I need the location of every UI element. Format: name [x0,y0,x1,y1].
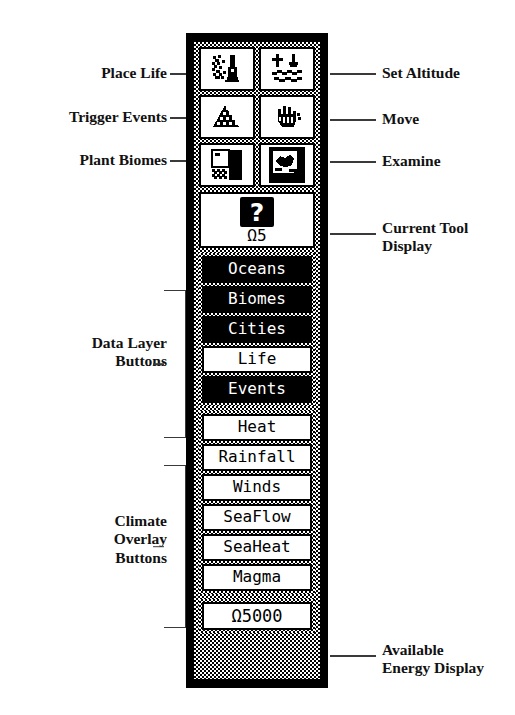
move-hand-icon [269,99,305,135]
data-layer-button-oceans[interactable]: Oceans [202,256,312,283]
annotation-move: Move [382,110,515,128]
examine-magnifier-icon [269,147,305,183]
climate-overlay-button-rainfall[interactable]: Rainfall [202,444,312,471]
climate-overlay-button-seaflow[interactable]: SeaFlow [202,504,312,531]
panel-interior: ? Ω5 Oceans Biomes Cities Life Events He… [194,42,320,679]
trigger-events-icon [209,99,245,135]
leader-examine [330,161,376,163]
set-altitude-icon [269,51,305,87]
tool-button-plant-biomes[interactable] [199,143,255,187]
question-mark-icon: ? [240,197,274,227]
annotation-current-tool-display: Current Tool Display [382,219,515,256]
leader-current-tool-display [330,233,376,235]
annotation-data-layer-buttons: Data Layer Buttons [0,334,167,371]
annotation-set-altitude: Set Altitude [382,64,515,82]
place-life-icon [209,51,245,87]
climate-overlay-button-heat[interactable]: Heat [202,414,312,441]
annotation-plant-biomes: Plant Biomes [0,151,167,169]
data-layer-button-biomes[interactable]: Biomes [202,286,312,313]
bracket-data-layer-buttons [164,290,186,438]
annotation-trigger-events: Trigger Events [0,108,167,126]
tool-button-trigger-events[interactable] [199,95,255,139]
annotation-available-energy-display: Available Energy Display [382,641,515,678]
available-energy-display: Ω5000 [199,599,315,633]
leader-move [330,119,376,121]
climate-overlay-button-magma[interactable]: Magma [202,564,312,591]
bracket-stub-data-layer [153,363,164,365]
climate-overlay-button-group: Heat Rainfall Winds SeaFlow SeaHeat Magm… [199,411,315,594]
climate-overlay-button-seaheat[interactable]: SeaHeat [202,534,312,561]
leader-set-altitude [330,73,376,75]
data-layer-button-cities[interactable]: Cities [202,316,312,343]
tool-button-move[interactable] [259,95,315,139]
game-toolbar-panel: ? Ω5 Oceans Biomes Cities Life Events He… [186,33,328,688]
current-tool-display: ? Ω5 [199,192,315,248]
data-layer-button-life[interactable]: Life [202,346,312,373]
climate-overlay-button-winds[interactable]: Winds [202,474,312,501]
current-tool-cost: Ω5 [247,228,266,245]
bracket-stub-climate-overlay [153,546,164,548]
annotation-climate-overlay-buttons: Climate Overlay Buttons [0,512,167,567]
tool-button-grid [199,47,315,187]
tool-button-examine[interactable] [259,143,315,187]
tool-button-place-life[interactable] [199,47,255,91]
plant-biomes-icon [209,147,245,183]
annotation-place-life: Place Life [7,64,167,82]
data-layer-button-events[interactable]: Events [202,376,312,403]
bracket-climate-overlay-buttons [164,465,186,628]
leader-available-energy-display [330,655,376,657]
annotation-examine: Examine [382,152,515,170]
tool-button-set-altitude[interactable] [259,47,315,91]
data-layer-button-group: Oceans Biomes Cities Life Events [199,253,315,406]
available-energy-value: Ω5000 [202,602,312,630]
